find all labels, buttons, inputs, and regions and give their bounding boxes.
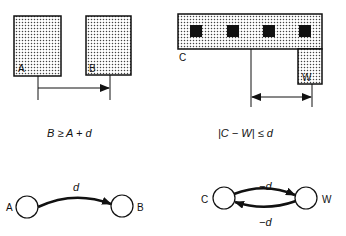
box-a: A — [14, 16, 61, 76]
graph-cw: C W −d −d — [201, 180, 332, 228]
edge-ab — [38, 198, 111, 207]
edge-wc — [235, 201, 296, 207]
node-c — [213, 187, 235, 209]
contact-square — [227, 25, 239, 37]
node-w-label: W — [322, 194, 332, 205]
constraint-ab: B ≥ A + d — [47, 127, 93, 139]
node-c-label: C — [201, 194, 208, 205]
node-w — [295, 187, 317, 209]
constraint-diagram: A B C W B ≥ A + d |C − W| ≤ d A B d — [0, 0, 346, 236]
constraint-cw: |C − W| ≤ d — [218, 127, 274, 139]
graph-ab: A B d — [6, 181, 144, 218]
box-c-label: C — [179, 52, 186, 63]
contact-square — [263, 25, 275, 37]
edge-cw-label: −d — [259, 180, 272, 192]
edge-wc-label: −d — [259, 216, 272, 228]
edge-ab-label: d — [73, 181, 80, 193]
contact-square — [190, 25, 202, 37]
node-b-label: B — [137, 202, 144, 213]
node-a — [16, 196, 38, 218]
node-a-label: A — [6, 202, 13, 213]
box-b-label: B — [89, 63, 96, 74]
node-b — [111, 195, 133, 217]
contact-square — [299, 25, 311, 37]
spacing-arrow-ab — [38, 75, 110, 100]
box-w-label: W — [302, 72, 312, 83]
box-w: W — [298, 49, 322, 84]
box-b: B — [86, 16, 131, 75]
box-a-label: A — [18, 63, 25, 74]
